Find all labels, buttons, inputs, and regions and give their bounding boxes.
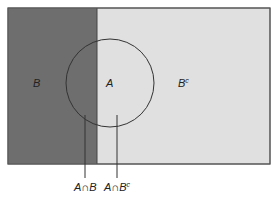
region-b <box>8 8 97 164</box>
label-a: A <box>105 77 113 89</box>
label-b: B <box>33 77 40 89</box>
label-a-and-b-complement: A∩Bc <box>103 181 131 193</box>
venn-diagram: B A Bc A∩B A∩Bc <box>0 0 277 199</box>
label-a-and-b: A∩B <box>73 181 97 193</box>
